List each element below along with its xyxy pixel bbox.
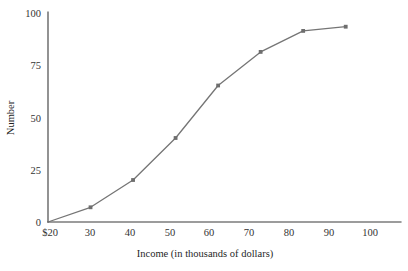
series-markers — [89, 25, 348, 209]
series-line-number — [48, 27, 346, 222]
x-tick-label-20: $20 — [42, 227, 58, 238]
data-point-marker — [259, 50, 263, 54]
data-point-marker — [131, 178, 135, 182]
y-tick-label-75: 75 — [31, 60, 42, 71]
data-point-marker — [216, 84, 220, 88]
x-tick-label-60: 60 — [204, 227, 215, 238]
y-axis-title: Number — [5, 100, 16, 135]
data-point-marker — [344, 25, 348, 29]
y-tick-label-50: 50 — [31, 113, 42, 124]
x-tick-label-100: 100 — [362, 227, 378, 238]
x-tick-label-30: 30 — [85, 227, 96, 238]
x-tick-label-50: 50 — [165, 227, 176, 238]
line-chart: 100 75 50 25 0 $20 30 40 50 60 70 80 90 … — [0, 0, 408, 271]
x-tick-label-80: 80 — [284, 227, 295, 238]
x-tick-label-40: 40 — [125, 227, 136, 238]
chart-page: 100 75 50 25 0 $20 30 40 50 60 70 80 90 … — [0, 0, 408, 271]
x-tick-label-70: 70 — [244, 227, 255, 238]
y-tick-label-0: 0 — [36, 217, 41, 228]
data-point-marker — [89, 205, 93, 209]
y-tick-label-100: 100 — [25, 8, 41, 19]
x-axis-title: Income (in thousands of dollars) — [137, 248, 274, 260]
y-tick-label-25: 25 — [31, 165, 42, 176]
data-point-marker — [301, 29, 305, 33]
x-tick-label-90: 90 — [324, 227, 335, 238]
data-point-marker — [174, 136, 178, 140]
